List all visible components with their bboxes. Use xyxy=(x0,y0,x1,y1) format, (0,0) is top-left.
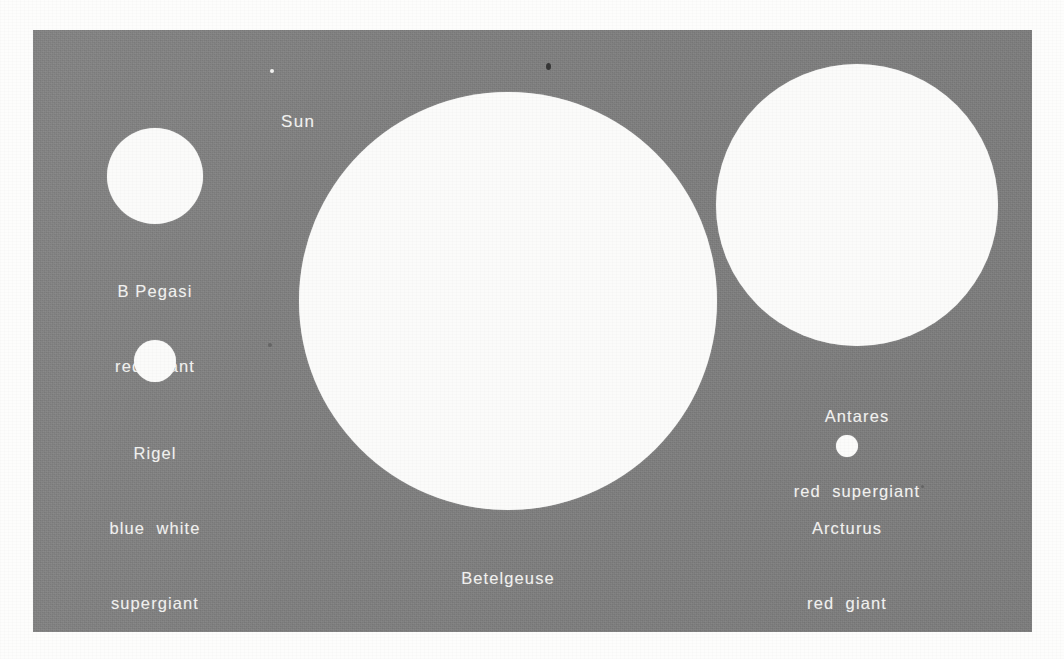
label-arcturus: Arcturus red giant xyxy=(737,466,957,632)
label-betelgeuse-name: Betelgeuse xyxy=(378,566,638,591)
label-antares-name: Antares xyxy=(727,404,987,429)
label-arcturus-name: Arcturus xyxy=(737,516,957,541)
label-rigel-type-line-2: supergiant xyxy=(55,591,255,616)
star-betelgeuse xyxy=(299,92,717,510)
label-b-pegasi-name: B Pegasi xyxy=(55,279,255,304)
scan-speck-left xyxy=(268,343,272,347)
star-b-pegasi xyxy=(107,128,203,224)
scan-speck-upper xyxy=(546,63,551,70)
star-arcturus xyxy=(836,435,858,457)
label-rigel-type-line-1: blue white xyxy=(55,516,255,541)
star-size-diagram-panel: Sun B Pegasi red giant Rigel blue white … xyxy=(33,30,1032,632)
star-rigel xyxy=(134,340,176,382)
label-rigel: Rigel blue white supergiant xyxy=(55,391,255,632)
label-rigel-name: Rigel xyxy=(55,441,255,466)
label-sun: Sun xyxy=(281,59,317,184)
label-arcturus-type: red giant xyxy=(737,591,957,616)
label-sun-name: Sun xyxy=(281,109,317,134)
label-betelgeuse: Betelgeuse red supergiant xyxy=(378,516,638,632)
star-sun xyxy=(270,69,274,73)
star-antares xyxy=(716,64,998,346)
page-surface: Sun B Pegasi red giant Rigel blue white … xyxy=(0,0,1064,659)
